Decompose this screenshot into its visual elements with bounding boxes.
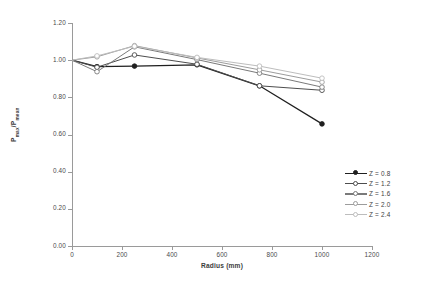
x-tick <box>372 246 373 250</box>
y-tick-label: 0.80 <box>26 94 66 100</box>
series-line <box>72 60 322 124</box>
legend-marker-icon <box>345 179 367 189</box>
legend-label: Z = 1.6 <box>367 190 390 197</box>
legend-label: Z = 1.2 <box>367 180 390 187</box>
plot-area: 0.000.200.400.600.801.001.20 02004006008… <box>72 23 372 246</box>
legend-marker-icon <box>345 189 367 199</box>
x-tick <box>122 246 123 250</box>
chart-legend: Z = 0.8Z = 1.2Z = 1.6Z = 2.0Z = 2.4 <box>345 168 443 220</box>
x-tick-label: 400 <box>152 252 192 258</box>
y-axis-title-den: P <box>10 121 17 126</box>
x-tick-label: 800 <box>252 252 292 258</box>
x-tick-label: 0 <box>52 252 92 258</box>
x-tick <box>322 246 323 250</box>
legend-marker-icon <box>345 210 367 220</box>
y-tick-label: 0.40 <box>26 168 66 174</box>
x-tick <box>272 246 273 250</box>
data-point <box>132 53 137 58</box>
x-axis-title: Radius (mm) <box>72 262 372 269</box>
x-tick-label: 200 <box>102 252 142 258</box>
x-tick <box>172 246 173 250</box>
series-1 <box>72 60 324 126</box>
x-tick <box>72 246 73 250</box>
data-point <box>195 62 200 67</box>
data-point <box>132 44 137 49</box>
legend-label: Z = 2.4 <box>367 211 390 218</box>
y-tick-label: 1.20 <box>26 20 66 26</box>
legend-item-3[interactable]: Z = 1.6 <box>345 189 443 199</box>
x-tick <box>222 246 223 250</box>
chart-figure: 0.000.200.400.600.801.001.20 02004006008… <box>0 0 448 283</box>
y-tick-label: 0.00 <box>26 243 66 249</box>
data-point <box>95 65 100 70</box>
data-point <box>320 85 325 90</box>
series-layer <box>72 23 372 246</box>
x-tick-label: 600 <box>202 252 242 258</box>
legend-item-2[interactable]: Z = 1.2 <box>345 178 443 188</box>
x-tick-label: 1200 <box>352 252 392 258</box>
data-point <box>195 55 200 60</box>
y-tick-label: 1.00 <box>26 57 66 63</box>
y-axis-title-num: P <box>10 137 17 142</box>
y-tick-label: 0.60 <box>26 131 66 137</box>
x-tick-label: 1000 <box>302 252 342 258</box>
data-point <box>257 84 262 89</box>
y-axis-title-den-sub: mean <box>15 107 20 120</box>
data-point <box>95 54 100 59</box>
data-point <box>132 64 137 69</box>
data-point <box>95 69 100 74</box>
y-axis-title-num-sub: max <box>15 127 20 137</box>
data-point <box>257 64 262 69</box>
y-axis-title: Pmax/Pmean <box>10 80 19 170</box>
legend-item-1[interactable]: Z = 0.8 <box>345 168 443 178</box>
data-point <box>320 76 325 81</box>
legend-label: Z = 0.8 <box>367 170 390 177</box>
legend-marker-icon <box>345 168 367 178</box>
legend-item-5[interactable]: Z = 2.4 <box>345 210 443 220</box>
y-tick-label: 0.20 <box>26 205 66 211</box>
data-point <box>320 122 325 127</box>
legend-label: Z = 2.0 <box>367 201 390 208</box>
legend-item-4[interactable]: Z = 2.0 <box>345 199 443 209</box>
legend-marker-icon <box>345 199 367 209</box>
